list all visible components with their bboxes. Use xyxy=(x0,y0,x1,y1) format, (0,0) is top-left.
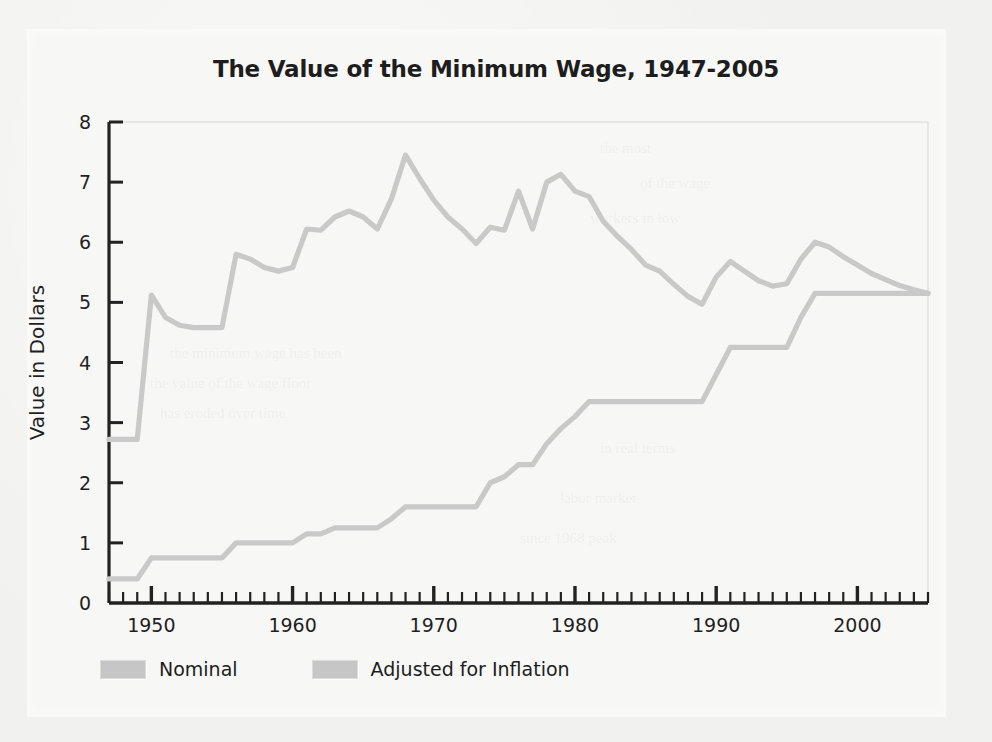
y-axis-title: Value in Dollars xyxy=(25,285,49,441)
x-tick-label: 1970 xyxy=(410,614,458,636)
x-tick-label: 1980 xyxy=(551,614,599,636)
legend-entry-nominal: Nominal xyxy=(100,658,238,680)
figure-background: the most of the wage workers in low the … xyxy=(0,0,992,742)
y-tick-label: 4 xyxy=(79,352,91,374)
x-tick-label: 1950 xyxy=(127,614,175,636)
y-tick-label: 6 xyxy=(79,231,91,253)
y-tick-label: 5 xyxy=(79,291,91,313)
legend-entry-adjusted: Adjusted for Inflation xyxy=(312,658,570,680)
legend-swatch-adjusted xyxy=(312,660,358,679)
y-tick-label: 2 xyxy=(79,472,91,494)
x-tick-label: 2000 xyxy=(833,614,881,636)
x-tick-label: 1990 xyxy=(692,614,740,636)
y-tick-label: 0 xyxy=(79,592,91,614)
y-tick-label: 7 xyxy=(79,171,91,193)
chart-legend: Nominal Adjusted for Inflation xyxy=(100,658,570,680)
legend-label-nominal: Nominal xyxy=(159,658,238,680)
y-tick-label: 8 xyxy=(79,111,91,133)
series-line-adjusted-for-inflation xyxy=(109,155,928,439)
series-line-nominal xyxy=(109,293,928,579)
y-tick-label: 1 xyxy=(79,532,91,554)
y-tick-label: 3 xyxy=(79,412,91,434)
legend-label-adjusted: Adjusted for Inflation xyxy=(371,658,570,680)
series-group xyxy=(109,155,928,579)
chart-plot: 012345678Value in Dollars195019601970198… xyxy=(0,0,992,742)
legend-swatch-nominal xyxy=(100,660,146,679)
x-tick-label: 1960 xyxy=(268,614,316,636)
